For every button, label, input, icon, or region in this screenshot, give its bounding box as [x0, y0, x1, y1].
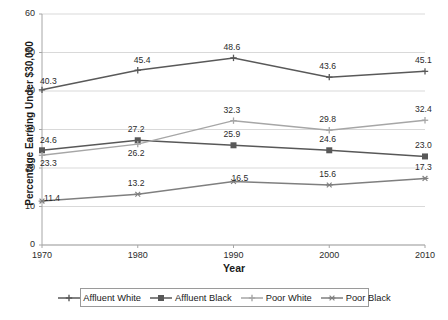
data-label: 23.3 — [40, 158, 57, 168]
legend-label: Poor White — [266, 293, 312, 303]
data-label: 43.6 — [319, 61, 336, 71]
data-label: 25.9 — [224, 129, 241, 139]
line-chart: Percentage Earning Under $30,000 Year 01… — [0, 0, 448, 320]
y-tick-label: 50 — [9, 47, 35, 57]
series-affluent-black-marker — [326, 147, 332, 153]
data-label: 26.2 — [128, 148, 145, 158]
data-label: 15.6 — [319, 169, 336, 179]
x-tick-label: 1980 — [118, 250, 158, 260]
y-tick-label: 40 — [9, 85, 35, 95]
y-tick-label: 10 — [9, 201, 35, 211]
legend-marker-affluent-white-icon — [58, 293, 80, 303]
legend-item-poor-black[interactable]: Poor Black — [321, 293, 391, 303]
data-label: 45.1 — [415, 55, 432, 65]
legend-marker-poor-black-icon — [321, 293, 343, 303]
data-label: 27.2 — [128, 124, 145, 134]
data-label: 29.8 — [319, 114, 336, 124]
legend-item-poor-white[interactable]: Poor White — [241, 293, 312, 303]
data-label: 11.4 — [44, 193, 60, 203]
data-label: 40.3 — [40, 76, 57, 86]
legend-label: Affluent Black — [175, 293, 232, 303]
data-label: 23.0 — [415, 140, 432, 150]
x-tick-label: 2010 — [405, 250, 445, 260]
legend-marker-poor-white-icon — [241, 293, 263, 303]
data-label: 13.2 — [128, 178, 145, 188]
data-label: 24.6 — [319, 134, 336, 144]
x-tick-label: 2000 — [309, 250, 349, 260]
data-label: 32.4 — [415, 104, 432, 114]
series-affluent-black-marker — [422, 153, 428, 159]
data-label: 17.3 — [415, 162, 432, 172]
legend-label: Poor Black — [346, 293, 391, 303]
legend: Affluent WhiteAffluent BlackPoor WhitePo… — [80, 288, 369, 307]
y-tick-label: 0 — [9, 239, 35, 249]
data-label: 32.3 — [224, 105, 241, 115]
data-label: 24.6 — [40, 135, 57, 145]
legend-marker-affluent-black-icon — [150, 293, 172, 303]
data-label: 48.6 — [224, 42, 241, 52]
series-affluent-black-marker — [231, 142, 237, 148]
legend-item-affluent-white[interactable]: Affluent White — [58, 293, 141, 303]
y-tick-label: 30 — [9, 124, 35, 134]
legend-item-affluent-black[interactable]: Affluent Black — [150, 293, 232, 303]
data-label: 16.5 — [232, 173, 249, 183]
legend-label: Affluent White — [83, 293, 141, 303]
series-line-affluent-white — [42, 58, 425, 90]
x-tick-label: 1970 — [22, 250, 62, 260]
y-tick-label: 20 — [9, 162, 35, 172]
data-label: 45.4 — [134, 55, 151, 65]
x-axis-title: Year — [42, 262, 426, 274]
x-tick-label: 1990 — [214, 250, 254, 260]
y-tick-label: 60 — [9, 8, 35, 18]
